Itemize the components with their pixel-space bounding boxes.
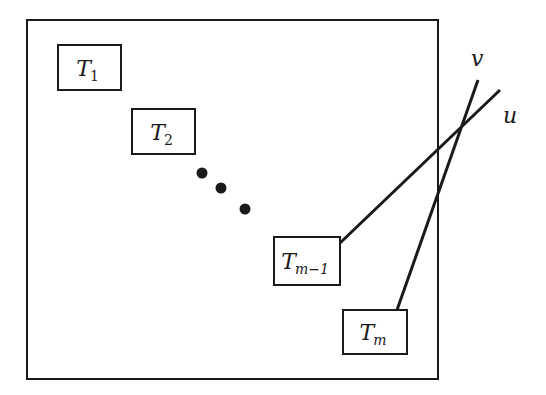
ellipsis-dot	[197, 168, 208, 179]
box-Tm: Tm	[343, 310, 407, 354]
task-boxes: T1T2Tm−1Tm	[58, 45, 407, 354]
box-T2: T2	[132, 109, 195, 154]
line-label-v: v	[471, 46, 484, 71]
diagram-canvas: T1T2Tm−1Tm u v	[0, 0, 546, 395]
ellipsis-dot	[216, 183, 227, 194]
edge-lines	[340, 80, 500, 310]
box-T1: T1	[58, 45, 121, 90]
ellipsis-dots	[197, 168, 251, 215]
line-u	[340, 90, 500, 243]
line-label-u: u	[503, 103, 517, 128]
box-Tm-1: Tm−1	[274, 237, 340, 285]
ellipsis-dot	[240, 204, 251, 215]
